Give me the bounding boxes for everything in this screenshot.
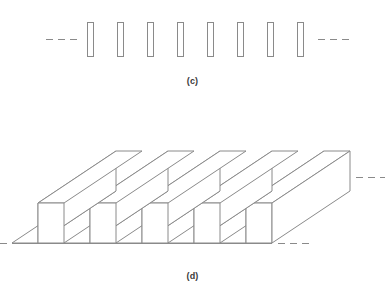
panel-d-drawing	[0, 100, 385, 295]
lamella-2	[117, 22, 123, 56]
lamella-8	[297, 22, 303, 56]
lamella-1	[87, 22, 93, 56]
lamella-3	[147, 22, 153, 56]
lamella-5	[207, 22, 213, 56]
ridge-front-face-5	[246, 203, 272, 243]
lamella-6	[237, 22, 243, 56]
ridge-front-face-4	[194, 203, 220, 243]
ridge-front-face-2	[90, 203, 116, 243]
ridge-front-face-1	[38, 203, 64, 243]
figure-container: (c) (d)	[0, 0, 385, 295]
panel-d	[0, 100, 385, 295]
lamella-4	[177, 22, 183, 56]
panel-c-label: (c)	[0, 76, 385, 86]
lamella-7	[267, 22, 273, 56]
panel-d-label: (d)	[0, 271, 385, 281]
ridge-front-face-3	[142, 203, 168, 243]
panel-c: (c)	[0, 0, 385, 100]
